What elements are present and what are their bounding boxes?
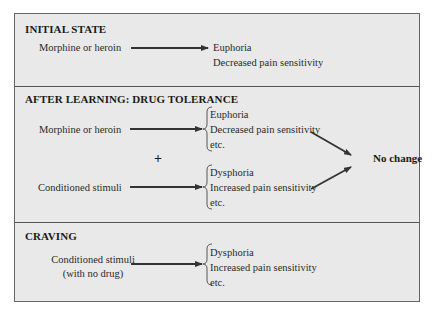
craving-effect-pain: Increased pain sensitivity [210, 262, 317, 273]
initial-effect-pain: Decreased pain sensitivity [213, 57, 323, 68]
tolerance-drug-effect-euphoria: Euphoria [210, 109, 249, 120]
tolerance-cond-effect-dysphoria: Dysphoria [210, 167, 254, 178]
plus-sign: + [154, 151, 162, 167]
tolerance-cond-effect-pain: Increased pain sensitivity [210, 182, 317, 193]
diagram-frame: INITIAL STATE Morphine or heroin Euphori… [14, 13, 420, 302]
initial-effect-euphoria: Euphoria [213, 42, 252, 53]
tolerance-drug-effect-pain: Decreased pain sensitivity [210, 124, 320, 135]
tolerance-drug-stimulus: Morphine or heroin [39, 124, 121, 135]
tolerance-conditioned-stimulus: Conditioned stimuli [38, 182, 122, 193]
craving-stimulus: Conditioned stimuli [37, 254, 149, 265]
section-title-craving: CRAVING [25, 230, 77, 242]
craving-effect-etc: etc. [210, 277, 225, 288]
section-divider [15, 86, 419, 87]
craving-stimulus-note: (with no drug) [37, 268, 149, 279]
tolerance-cond-effect-etc: etc. [210, 197, 225, 208]
section-divider [15, 222, 419, 223]
tolerance-drug-effect-etc: etc. [210, 139, 225, 150]
section-title-initial-state: INITIAL STATE [25, 23, 106, 35]
outcome-no-change: No change [373, 152, 422, 164]
section-title-tolerance: AFTER LEARNING: DRUG TOLERANCE [25, 93, 238, 105]
craving-effect-dysphoria: Dysphoria [210, 247, 254, 258]
initial-stimulus: Morphine or heroin [39, 42, 121, 53]
